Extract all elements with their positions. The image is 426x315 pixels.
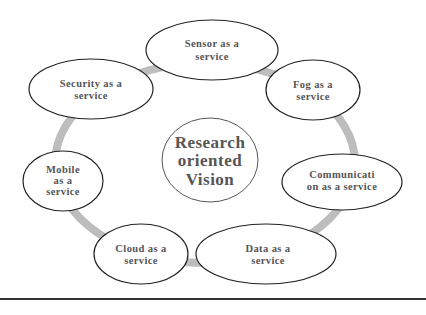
center-node: Research oriented Vision: [162, 118, 258, 202]
center-line-1: Research: [175, 133, 246, 152]
node-communication: Communicati on as a service: [282, 154, 402, 210]
node-sensor: Sensor as a service: [146, 20, 278, 80]
center-line-3: Vision: [186, 170, 235, 189]
node-communication-line-2: on as a service: [307, 181, 377, 192]
center-line-2: oriented: [178, 151, 242, 170]
node-sensor-line-1: Sensor as a: [185, 38, 240, 49]
node-fog: Fog as a service: [266, 60, 360, 120]
node-security: Security as a service: [29, 59, 153, 119]
bottom-rule: [0, 298, 426, 300]
node-communication-line-1: Communicati: [309, 169, 375, 180]
node-security-line-1: Security as a: [60, 78, 123, 89]
node-data-line-1: Data as a: [245, 243, 290, 254]
research-vision-diagram: Research oriented Vision Sensor as a ser…: [0, 0, 426, 315]
node-mobile-line-2: as a: [54, 175, 73, 186]
node-cloud-line-1: Cloud as a: [115, 243, 167, 254]
node-data-line-2: service: [251, 255, 285, 266]
node-mobile: Mobile as a service: [23, 151, 103, 211]
node-cloud-line-2: service: [124, 255, 158, 266]
node-sensor-line-2: service: [195, 51, 229, 62]
node-fog-line-2: service: [296, 91, 330, 102]
node-cloud: Cloud as a service: [94, 224, 188, 284]
node-data: Data as a service: [196, 224, 336, 284]
node-mobile-line-3: service: [46, 186, 80, 197]
node-fog-line-1: Fog as a: [293, 79, 333, 90]
node-security-line-2: service: [74, 90, 108, 101]
node-mobile-line-1: Mobile: [46, 164, 80, 175]
